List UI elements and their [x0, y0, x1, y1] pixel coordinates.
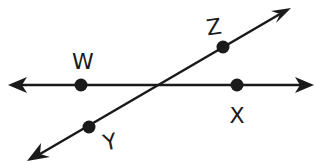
point-z-dot: [217, 41, 230, 54]
point-z-label: Z: [205, 14, 223, 41]
point-x-label: X: [229, 103, 244, 128]
point-y: Y: [83, 121, 120, 156]
horizontal-line-wx: [8, 77, 314, 93]
point-x: X: [229, 79, 244, 128]
point-z: Z: [205, 14, 230, 54]
point-w-dot: [75, 79, 88, 92]
arrow-down-left-icon: [27, 143, 50, 161]
point-w-label: W: [72, 49, 94, 74]
point-y-dot: [83, 121, 96, 134]
arrow-up-right-icon: [271, 8, 291, 23]
point-y-label: Y: [100, 128, 120, 156]
intersecting-lines-diagram: W X Z Y: [0, 0, 315, 163]
point-x-dot: [231, 79, 244, 92]
